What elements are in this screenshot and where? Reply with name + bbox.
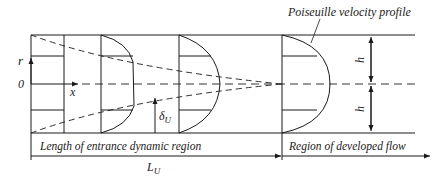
delta-label: δU [159,109,172,125]
x-axis-label: x [69,85,76,99]
entrance-length-label: LU [146,160,161,176]
origin-label: 0 [18,77,24,91]
boundary-layer-top [31,35,282,84]
h-top-label: h [353,57,367,63]
developing-profile-1 [101,35,134,133]
poiseuille-label: Poiseuille velocity profile [287,5,412,19]
developed-region-label: Region of developed flow [288,140,406,153]
r-axis-label: r [18,53,24,68]
entrance-region-label: Length of entrance dynamic region [39,140,201,153]
flow-diagram: δU Poiseuille velocity profile h h r 0 x… [0,0,447,179]
poiseuille-leader [311,19,320,43]
boundary-layer-bottom [31,84,282,133]
h-bottom-label: h [353,106,367,112]
